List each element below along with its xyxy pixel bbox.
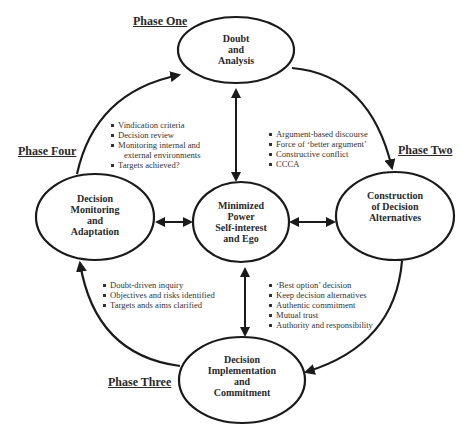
node-center-line: Power	[196, 211, 286, 222]
node-center-text: Minimized Power Self-interest and Ego	[196, 200, 286, 244]
phase-three-label: Phase Three	[108, 375, 171, 390]
node-top-text: Doubt and Analysis	[196, 33, 276, 66]
bullet-item: CCCA	[268, 159, 368, 169]
node-bottom-line: Commitment	[197, 387, 287, 398]
bullet-item: ‘Best option’ decision	[268, 280, 373, 290]
node-bottom-text: Decision Implementation and Commitment	[197, 354, 287, 398]
bullets-phase-three: ‘Best option’ decision Keep decision alt…	[268, 280, 373, 330]
node-bottom-line: Decision	[197, 354, 287, 365]
phase-one-label: Phase One	[133, 14, 187, 29]
phase-two-label: Phase Two	[398, 143, 453, 158]
node-center-line: Minimized	[196, 200, 286, 211]
node-top-line: and	[196, 44, 276, 55]
node-top-line: Analysis	[196, 55, 276, 66]
phase-four-label: Phase Four	[18, 144, 76, 159]
node-center-line: and Ego	[196, 233, 286, 244]
node-right-line: Construction	[350, 190, 440, 201]
bullets-phase-one: Doubt-driven inquiry Objectives and risk…	[102, 280, 215, 310]
bullet-item: Authentic commitment	[268, 300, 373, 310]
bullet-item: Objectives and risks identified	[102, 290, 215, 300]
node-right-line: Alternatives	[350, 212, 440, 223]
bullet-item: Constructive conflict	[268, 149, 368, 159]
bullet-item: Argument-based discourse	[268, 129, 368, 139]
bullet-item: Doubt-driven inquiry	[102, 280, 215, 290]
bullet-item-continuation: external environments	[110, 150, 201, 160]
bullet-item: Decision review	[110, 130, 201, 140]
bullet-item: Targets ands aims clarified	[102, 300, 215, 310]
node-bottom-line: and	[197, 376, 287, 387]
node-bottom-line: Implementation	[197, 365, 287, 376]
bullet-item: Monitoring internal and	[110, 140, 201, 150]
node-left-line: Adaptation	[55, 226, 135, 237]
bullets-phase-four: Vindication criteria Decision review Mon…	[110, 120, 201, 170]
node-left-line: Decision	[55, 193, 135, 204]
bullet-item: Keep decision alternatives	[268, 290, 373, 300]
bullet-item: Vindication criteria	[110, 120, 201, 130]
node-top-line: Doubt	[196, 33, 276, 44]
bullet-item: Targets achieved?	[110, 160, 201, 170]
node-left-line: and	[55, 215, 135, 226]
node-right-line: of Decision	[350, 201, 440, 212]
bullets-phase-two: Argument-based discourse Force of ‘bette…	[268, 129, 368, 169]
bullet-item: Force of ‘better argument’	[268, 139, 368, 149]
bullet-item: Authority and responsibility	[268, 320, 373, 330]
node-left-text: Decision Monitoring and Adaptation	[55, 193, 135, 237]
bullet-item: Mutual trust	[268, 310, 373, 320]
node-right-text: Construction of Decision Alternatives	[350, 190, 440, 223]
arrow-bottom-to-left	[80, 263, 180, 366]
node-center-line: Self-interest	[196, 222, 286, 233]
node-left-line: Monitoring	[55, 204, 135, 215]
